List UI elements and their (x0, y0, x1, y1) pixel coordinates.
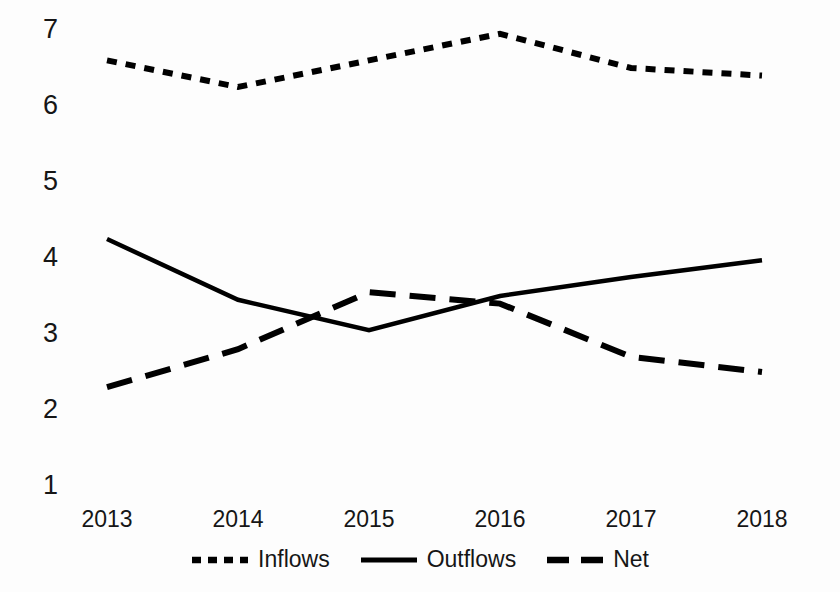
x-axis-tick-label: 2014 (212, 508, 263, 531)
x-axis-tick-label: 2015 (343, 508, 394, 531)
legend-item-outflows[interactable]: Outflows (360, 548, 516, 571)
legend-label: Outflows (427, 548, 516, 571)
legend-label: Inflows (258, 548, 330, 571)
x-axis: 201320142015201620172018 (0, 0, 840, 592)
legend-item-inflows[interactable]: Inflows (191, 548, 330, 571)
line-chart: 7654321 201320142015201620172018 Inflows… (0, 0, 840, 592)
x-axis-tick-label: 2018 (736, 508, 787, 531)
legend-label: Net (613, 548, 649, 571)
x-axis-tick-label: 2016 (474, 508, 525, 531)
legend-item-net[interactable]: Net (546, 548, 649, 571)
legend-swatch-dotted (191, 554, 249, 566)
x-axis-tick-label: 2017 (605, 508, 656, 531)
legend-swatch-solid (360, 554, 418, 566)
chart-legend: InflowsOutflowsNet (0, 548, 840, 571)
x-axis-tick-label: 2013 (81, 508, 132, 531)
legend-swatch-dashed (546, 554, 604, 566)
